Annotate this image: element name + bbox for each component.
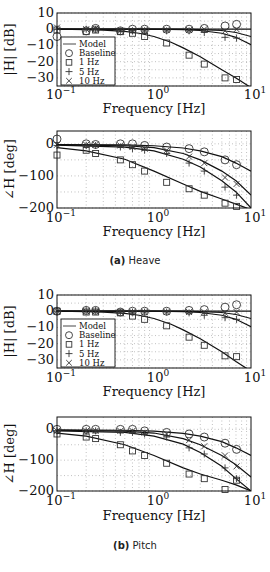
5hz-marker — [186, 27, 193, 34]
5hz-marker — [186, 309, 193, 316]
y-tick-label: −10 — [27, 319, 54, 334]
5hz-marker — [222, 464, 229, 471]
y-axis-label: ∠H [deg] — [2, 424, 17, 485]
y-tick-label: 0 — [46, 421, 54, 436]
chart-panel-heave-magnitude: 100−10−20−3010−1100101Frequency [Hz]|H| … — [2, 5, 266, 116]
y-tick-label: −30 — [27, 352, 54, 367]
5hz-marker — [201, 168, 208, 175]
10hz-marker — [222, 175, 228, 181]
caption-heave-label: (a) — [110, 255, 126, 266]
x-tick-label: 100 — [147, 491, 170, 508]
x-tick-label: 101 — [244, 208, 266, 225]
5hz-marker — [83, 307, 90, 314]
x-tick-label: 100 — [147, 85, 170, 102]
baseline-marker — [233, 301, 241, 309]
caption-heave: (a) Heave — [0, 255, 270, 266]
5hz-marker — [163, 27, 170, 34]
y-tick-label: −100 — [18, 452, 54, 467]
chart-panel-pitch-phase: 0−100−20010−1100101Frequency [Hz]∠H [deg… — [2, 417, 266, 523]
caption-pitch: (b) Pitch — [0, 540, 270, 551]
y-tick-label: 0 — [46, 303, 54, 318]
y-tick-label: −30 — [27, 70, 54, 85]
x-tick-label: 100 — [147, 208, 170, 225]
x-axis-label: Frequency [Hz] — [103, 508, 206, 523]
1hz-marker — [186, 471, 192, 477]
y-axis-label: ∠H [deg] — [2, 139, 17, 200]
y-axis-label: |H| [dB] — [2, 305, 17, 357]
figure-canvas: 100−10−20−3010−1100101Frequency [Hz]|H| … — [0, 0, 270, 572]
y-tick-label: −20 — [27, 336, 54, 351]
y-tick-label: 10 — [37, 287, 54, 302]
x-tick-label: 10−1 — [46, 368, 76, 385]
x-tick-label: 101 — [244, 368, 266, 385]
chart-panel-heave-phase: 0−100−20010−1100101Frequency [Hz]∠H [deg… — [2, 131, 266, 239]
1hz-marker — [201, 61, 207, 67]
y-tick-label: 10 — [37, 5, 54, 20]
1hz-marker — [222, 486, 228, 492]
y-tick-label: −100 — [18, 168, 54, 183]
caption-pitch-label: (b) — [113, 540, 129, 551]
y-tick-label: 0 — [46, 136, 54, 151]
1hz-marker — [201, 342, 207, 348]
1hz-marker — [201, 476, 207, 482]
x-tick-label: 100 — [147, 368, 170, 385]
1hz-marker — [234, 354, 240, 360]
baseline-marker — [233, 20, 241, 28]
y-axis-label: |H| [dB] — [2, 23, 17, 75]
5hz-marker — [233, 192, 240, 199]
x-tick-label: 101 — [244, 491, 266, 508]
y-tick-label: −20 — [27, 54, 54, 69]
5hz-marker — [233, 316, 240, 323]
x-tick-label: 101 — [244, 85, 266, 102]
legend: ModelBaseline1 Hz5 Hz10 Hz — [61, 37, 116, 86]
5hz-marker — [233, 35, 240, 42]
1hz-marker — [186, 334, 192, 340]
1hz-marker — [186, 52, 192, 58]
x-axis-label: Frequency [Hz] — [103, 224, 206, 239]
1hz-marker — [164, 179, 170, 185]
legend-entry-label: 10 Hz — [79, 358, 105, 368]
x-tick-label: 10−1 — [46, 208, 76, 225]
5hz-marker — [83, 142, 90, 149]
y-tick-label: −10 — [27, 37, 54, 52]
5hz-marker — [92, 307, 99, 314]
x-tick-label: 10−1 — [46, 85, 76, 102]
caption-heave-text: Heave — [129, 255, 161, 266]
legend: ModelBaseline1 Hz5 Hz10 Hz — [61, 319, 116, 368]
caption-pitch-text: Pitch — [133, 540, 157, 551]
chart-panel-pitch-magnitude: 100−10−20−3010−1100101Frequency [Hz]|H| … — [2, 287, 266, 399]
y-tick-label: 0 — [46, 21, 54, 36]
x-tick-label: 10−1 — [46, 491, 76, 508]
x-axis-label: Frequency [Hz] — [103, 384, 206, 399]
x-axis-label: Frequency [Hz] — [103, 101, 206, 116]
legend-entry-label: 10 Hz — [79, 76, 105, 86]
